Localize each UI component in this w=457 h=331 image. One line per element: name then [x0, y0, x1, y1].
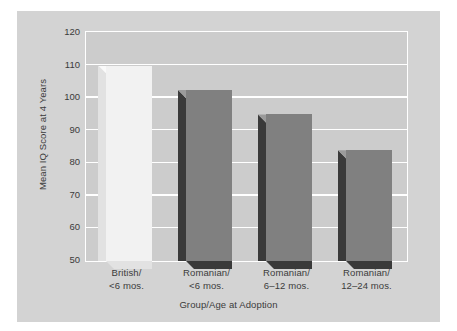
bar-front-face	[106, 66, 152, 261]
x-axis-category-label: Romanian/12–24 mos.	[307, 267, 427, 292]
y-axis-tick-label: 100	[64, 92, 80, 102]
bar-front-face	[346, 150, 392, 261]
x-axis-category-label-line: 12–24 mos.	[307, 280, 427, 293]
bar-front-face	[266, 114, 312, 261]
bar[interactable]	[186, 90, 232, 261]
y-axis-tick-label: 120	[64, 27, 80, 37]
x-axis-title: Group/Age at Adoption	[17, 299, 440, 310]
x-axis-category-label-line: Romanian/	[307, 267, 427, 280]
plot-area: 1201101009080706050	[85, 31, 408, 262]
figure-panel: Mean IQ Score at 4 Years 120110100908070…	[17, 11, 440, 322]
y-axis-tick-label: 60	[69, 223, 80, 233]
y-axis-title: Mean IQ Score at 4 Years	[37, 50, 48, 220]
bar[interactable]	[346, 150, 392, 261]
bar-side-face	[98, 66, 106, 261]
y-axis-tick-label: 50	[69, 255, 80, 265]
bar-side-face	[338, 150, 346, 261]
bar-side-face	[178, 90, 186, 261]
y-axis-tick-label: 110	[65, 60, 80, 70]
y-axis-tick-label: 80	[69, 158, 80, 168]
bar-side-face	[258, 114, 266, 261]
y-axis-tick-label: 70	[69, 190, 80, 200]
y-axis-tick-label: 90	[69, 125, 80, 135]
bar[interactable]	[106, 66, 152, 261]
bar-front-face	[186, 90, 232, 261]
bar[interactable]	[266, 114, 312, 261]
